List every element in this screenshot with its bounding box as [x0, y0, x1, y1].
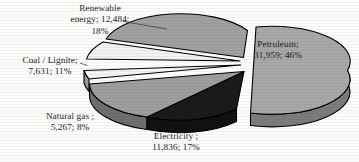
slice-label-coal-lignite: Coal / Lignite; 7,631; 11%: [2, 55, 98, 78]
slice-label-natural-gas: Natural gas ; 5,267; 8%: [22, 111, 118, 134]
slice-label-petroleum: Petroleum; 31,959; 46%: [228, 39, 328, 62]
slice-label-renewable-energy: Renewable energy; 12,484; 18%: [44, 3, 156, 37]
pie-chart-figure: Renewable energy; 12,484; 18% Coal / Lig…: [0, 0, 359, 162]
slice-label-electricity: Electricity ; 11,836; 17%: [124, 131, 228, 154]
